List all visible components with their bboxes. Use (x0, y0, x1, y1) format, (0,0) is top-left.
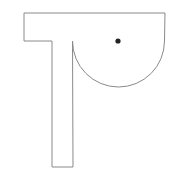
background (0, 0, 179, 180)
center-dot (115, 38, 120, 43)
figure-canvas (0, 0, 179, 180)
